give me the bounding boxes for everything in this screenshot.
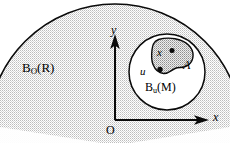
point-x-dot: [170, 48, 175, 53]
label-blob-a: A: [183, 59, 190, 71]
label-inner-ball-argument: (M): [157, 80, 176, 94]
label-inner-ball-base: B: [145, 80, 153, 94]
label-point-u: u: [140, 66, 146, 77]
point-u-dot: [157, 67, 162, 72]
figure-container: BO(R) Bu(M) A x u y x O: [0, 0, 230, 146]
label-point-x: x: [157, 47, 162, 58]
label-outer-ball-argument: (R): [37, 60, 54, 75]
label-x-axis: x: [213, 111, 218, 123]
label-inner-ball: Bu(M): [145, 81, 176, 95]
label-origin: O: [106, 124, 115, 136]
label-y-axis: y: [111, 24, 116, 36]
label-outer-ball-base: B: [22, 60, 31, 75]
label-outer-ball: BO(R): [22, 61, 54, 76]
